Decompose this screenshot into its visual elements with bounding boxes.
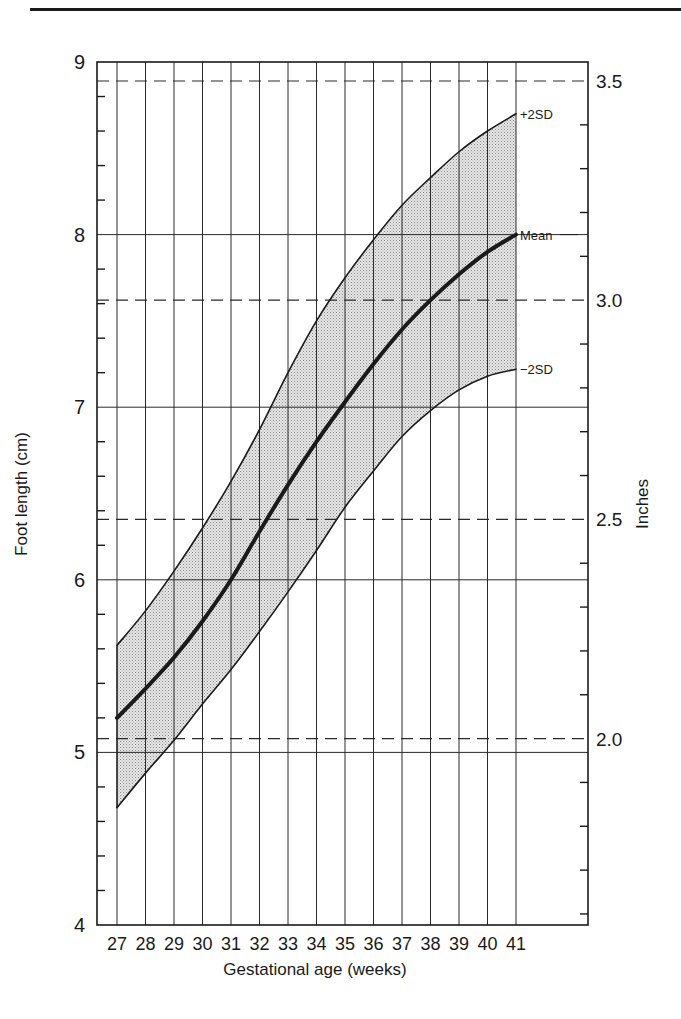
x-tick-label: 41 [506, 934, 526, 954]
x-tick-label: 37 [392, 934, 412, 954]
y-tick-label: 5 [74, 741, 85, 763]
y-tick-label: 4 [74, 914, 85, 936]
x-axis-title: Gestational age (weeks) [223, 960, 406, 979]
x-tick-label: 32 [249, 934, 269, 954]
x-tick-label: 36 [363, 934, 383, 954]
x-tick-label: 31 [221, 934, 241, 954]
x-tick-label: 29 [164, 934, 184, 954]
foot-length-chart: 4567892.02.53.03.52728293031323334353637… [0, 0, 681, 1019]
x-tick-label: 28 [135, 934, 155, 954]
label-mean: Mean [520, 228, 553, 243]
x-tick-label: 27 [107, 934, 127, 954]
x-tick-label: 38 [420, 934, 440, 954]
right-tick-label: 3.5 [596, 71, 622, 92]
y-axis-title: Foot length (cm) [12, 432, 31, 556]
y-tick-label: 7 [74, 396, 85, 418]
label-minus-2sd: −2SD [520, 362, 553, 377]
label-plus-2sd: +2SD [520, 107, 553, 122]
y-tick-label: 9 [74, 51, 85, 73]
x-tick-label: 30 [192, 934, 212, 954]
y-tick-label: 6 [74, 569, 85, 591]
right-tick-label: 2.0 [596, 729, 622, 750]
x-tick-label: 35 [335, 934, 355, 954]
x-tick-label: 33 [278, 934, 298, 954]
x-tick-label: 40 [477, 934, 497, 954]
right-axis-title: Inches [633, 479, 652, 529]
right-tick-label: 2.5 [596, 509, 622, 530]
x-tick-label: 39 [449, 934, 469, 954]
x-tick-label: 34 [306, 934, 326, 954]
y-tick-label: 8 [74, 224, 85, 246]
right-tick-label: 3.0 [596, 290, 622, 311]
